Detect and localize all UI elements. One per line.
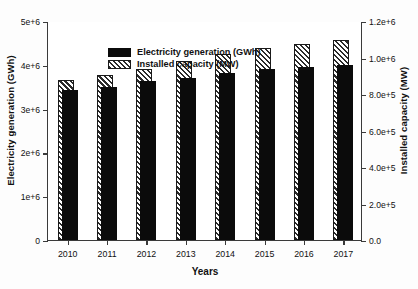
y-tick-right: [361, 59, 366, 60]
y-tick-right: [361, 205, 366, 206]
y-axis-title-right: Installed capacity (MW): [396, 0, 412, 241]
bar-electricity-generation: [259, 69, 275, 240]
x-tick: [107, 240, 108, 245]
bar-electricity-generation: [219, 73, 235, 240]
bar-group: [294, 21, 314, 240]
y-tick-label-right: 4.0e+5: [369, 163, 396, 173]
x-tick: [225, 240, 226, 245]
bar-electricity-generation: [180, 78, 196, 240]
y-tick-label-right: 6.0e+5: [369, 127, 396, 137]
y-tick-label-right: 2.0e+5: [369, 200, 396, 210]
y-tick-right: [361, 241, 366, 242]
x-tick: [304, 240, 305, 245]
x-tick: [146, 240, 147, 245]
x-tick-label: 2012: [137, 249, 157, 259]
bar-electricity-generation: [140, 81, 156, 240]
x-tick-label: 2014: [215, 249, 235, 259]
x-tick: [265, 240, 266, 245]
y-tick-left: [43, 197, 48, 198]
x-axis-title: Years: [47, 266, 363, 277]
chart-legend: Electricity generation (GWh) Installed c…: [108, 47, 261, 71]
x-tick: [68, 240, 69, 245]
x-tick: [186, 240, 187, 245]
x-tick-label: 2016: [294, 249, 314, 259]
bar-electricity-generation: [101, 87, 117, 240]
legend-item-installed-capacity: Installed capacity (MW): [108, 59, 261, 69]
y-tick-label-right: 0.0: [369, 236, 381, 246]
y-axis-title-left-label: Electricity generation (GWh): [5, 55, 16, 186]
y-tick-right: [361, 95, 366, 96]
bar-electricity-generation: [337, 65, 353, 240]
x-tick-label: 2013: [176, 249, 196, 259]
plot-area: Electricity generation (GWh) Installed c…: [47, 22, 362, 241]
y-tick-right: [361, 132, 366, 133]
bar-electricity-generation: [62, 90, 78, 240]
legend-label: Electricity generation (GWh): [137, 47, 261, 57]
legend-item-electricity-generation: Electricity generation (GWh): [108, 47, 261, 57]
y-tick-label-right: 8.0e+5: [369, 90, 396, 100]
y-tick-label-left: 4e+6: [21, 61, 40, 71]
x-tick: [343, 240, 344, 245]
y-tick-right: [361, 168, 366, 169]
y-axis-title-right-label: Installed capacity (MW): [399, 67, 410, 174]
y-tick-left: [43, 241, 48, 242]
x-tick-label: 2010: [58, 249, 78, 259]
y-tick-label-left: 3e+6: [21, 105, 40, 115]
y-tick-label-left: 0: [35, 236, 40, 246]
chart-figure: Electricity generation (GWh) Installed c…: [0, 0, 418, 289]
y-tick-left: [43, 153, 48, 154]
bar-group: [333, 21, 353, 240]
y-tick-label-right: 1.2e+6: [369, 17, 396, 27]
x-tick-label: 2017: [334, 249, 354, 259]
y-tick-left: [43, 66, 48, 67]
y-tick-left: [43, 110, 48, 111]
y-tick-label-left: 1e+6: [21, 192, 40, 202]
bar-electricity-generation: [298, 67, 314, 240]
y-tick-label-right: 1.0e+6: [369, 54, 396, 64]
bar-group: [58, 21, 78, 240]
y-tick-label-left: 2e+6: [21, 148, 40, 158]
legend-label: Installed capacity (MW): [137, 59, 239, 69]
legend-swatch-solid-icon: [108, 48, 131, 57]
legend-swatch-hatch-icon: [108, 60, 131, 69]
y-axis-title-left: Electricity generation (GWh): [2, 0, 18, 241]
x-tick-label: 2015: [255, 249, 275, 259]
y-tick-right: [361, 22, 366, 23]
x-tick-label: 2011: [98, 249, 117, 259]
y-tick-left: [43, 22, 48, 23]
y-tick-label-left: 5e+6: [21, 17, 40, 27]
